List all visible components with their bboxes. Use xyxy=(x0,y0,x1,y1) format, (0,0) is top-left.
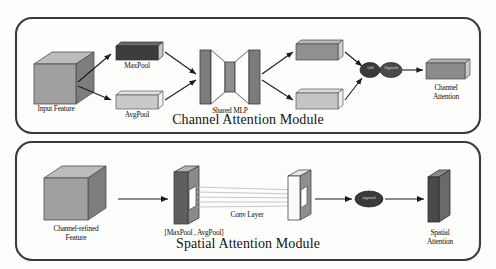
spatial-module-title: Spatial Attention Module xyxy=(146,237,350,252)
conv-connection-lines xyxy=(196,187,298,207)
channel-attention-label-line1: Channel xyxy=(413,84,479,92)
figure-canvas: Input Feature MaxPool AvgPool Shared MLP… xyxy=(0,0,496,269)
spatial-sigmoid-label: sigmoid xyxy=(357,196,381,200)
channel-module-title: Channel Attention Module xyxy=(148,113,348,128)
shared-mlp-block xyxy=(200,50,260,104)
channel-diverge-arrows xyxy=(262,52,293,100)
conv-layer-label: Conv Layer xyxy=(212,211,282,219)
pool-concat-slab xyxy=(174,166,199,224)
conv-output-slab xyxy=(288,170,311,220)
maxpool-label: MaxPool xyxy=(107,62,167,70)
input-feature-label: Input Feature xyxy=(18,105,94,113)
channel-refined-label-line1: Channel-refined xyxy=(28,225,124,233)
input-feature-cube xyxy=(34,52,94,104)
sigmoid-operation-label: Sigmoid xyxy=(380,66,402,70)
channel-sum-arrows xyxy=(345,52,362,100)
channel-refined-feature-cube xyxy=(44,166,106,220)
channel-mlp-out-top xyxy=(296,40,343,60)
maxpool-bar xyxy=(116,42,163,60)
add-operation-label: Add xyxy=(360,66,380,70)
spatial-attention-label-line2: Attention xyxy=(406,238,474,246)
channel-attention-label-line2: Attention xyxy=(413,93,479,101)
spatial-attention-label-line1: Spatial xyxy=(406,229,474,237)
avgpool-bar xyxy=(116,91,163,109)
channel-attention-bar xyxy=(426,59,470,79)
spatial-attention-slab xyxy=(428,170,450,222)
channel-converge-arrows xyxy=(165,52,196,100)
channel-refined-label-line2: Feature xyxy=(28,234,124,242)
channel-mlp-out-bottom xyxy=(296,89,343,109)
